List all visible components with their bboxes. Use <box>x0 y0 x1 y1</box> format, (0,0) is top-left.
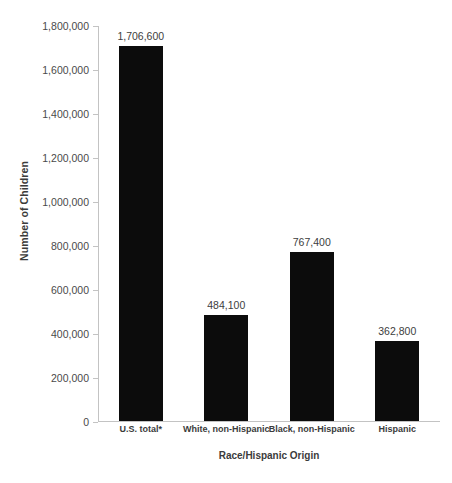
y-axis-tick-label: 1,200,000 <box>42 152 89 164</box>
x-axis-title: Race/Hispanic Origin <box>98 450 440 461</box>
x-axis-category-label: White, non-Hispanic <box>183 424 270 434</box>
y-axis-tick-mark <box>93 202 98 203</box>
y-axis-tick-label: 0 <box>83 416 89 428</box>
bar[interactable]: 362,800 <box>375 341 419 421</box>
bar[interactable]: 484,100 <box>204 315 248 422</box>
bar-chart: Number of Children 0200,000400,000600,00… <box>0 0 452 483</box>
x-axis-category-label: Hispanic <box>378 424 416 434</box>
bar[interactable]: 1,706,600 <box>119 46 163 421</box>
y-axis-tick-mark <box>93 26 98 27</box>
y-axis-tick-label: 800,000 <box>51 240 89 252</box>
y-axis-tick-mark <box>93 70 98 71</box>
x-axis-line <box>98 421 440 422</box>
y-axis-line <box>98 26 99 422</box>
y-axis-title: Number of Children <box>13 0 35 422</box>
y-axis-tick-mark <box>93 290 98 291</box>
y-axis-tick-label: 200,000 <box>51 372 89 384</box>
y-axis-tick-label: 1,800,000 <box>42 20 89 32</box>
y-axis-tick-mark <box>93 422 98 423</box>
bar-value-label: 484,100 <box>207 299 245 311</box>
x-axis-category-label: Black, non-Hispanic <box>269 424 355 434</box>
y-axis-tick-mark <box>93 158 98 159</box>
x-axis-category-label: U.S. total* <box>119 424 162 434</box>
y-axis-tick-label: 400,000 <box>51 328 89 340</box>
y-axis-title-text: Number of Children <box>18 161 30 261</box>
bar[interactable]: 767,400 <box>290 252 334 421</box>
bar-value-label: 1,706,600 <box>117 30 164 42</box>
y-axis-tick-mark <box>93 334 98 335</box>
bar-value-label: 362,800 <box>378 325 416 337</box>
y-axis-tick-label: 1,600,000 <box>42 64 89 76</box>
y-axis-tick-label: 1,400,000 <box>42 108 89 120</box>
y-axis-tick-mark <box>93 114 98 115</box>
bar-value-label: 767,400 <box>293 236 331 248</box>
y-axis-tick-label: 600,000 <box>51 284 89 296</box>
y-axis-tick-mark <box>93 378 98 379</box>
y-axis-tick-mark <box>93 246 98 247</box>
plot-area: 0200,000400,000600,000800,0001,000,0001,… <box>98 26 440 422</box>
y-axis-tick-label: 1,000,000 <box>42 196 89 208</box>
